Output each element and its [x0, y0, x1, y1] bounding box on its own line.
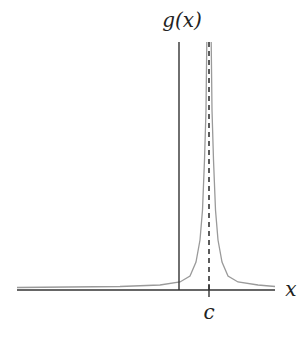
curve-right-branch — [211, 42, 275, 287]
asymptote-label: c — [203, 300, 214, 324]
graph-canvas: g(x) x c — [0, 0, 302, 345]
x-axis-label: x — [285, 277, 296, 301]
function-label: g(x) — [162, 8, 202, 32]
